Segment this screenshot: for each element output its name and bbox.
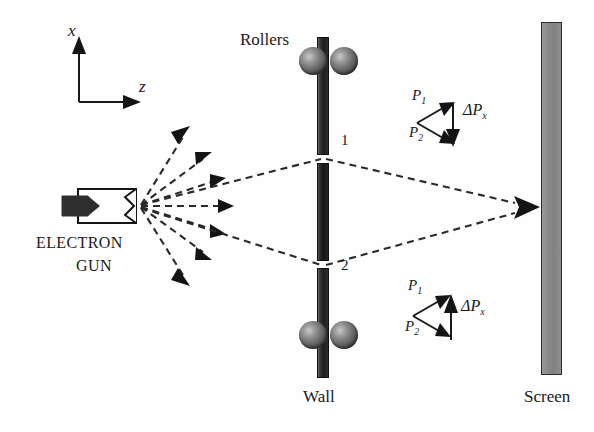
electron-ray-7	[141, 208, 190, 286]
electron-ray-2	[141, 152, 212, 205]
rollers-label: Rollers	[240, 31, 289, 48]
momentum-label-p2-lower: P2	[405, 318, 419, 337]
physics-diagram: x z ELECTRON GUN 1 2 Wall Rollers Screen	[0, 0, 594, 432]
z-axis-arrow	[79, 95, 141, 109]
momentum-label-p1-upper: P1	[412, 87, 426, 106]
slit-2-label: 2	[341, 258, 349, 273]
electron-ray-to-slit-1	[141, 159, 321, 205]
momentum-label-delta-px-upper: ΔPx	[463, 101, 487, 121]
wall-label: Wall	[303, 388, 335, 405]
electron-gun-label-line1: ELECTRON	[36, 235, 123, 251]
x-axis-arrow	[72, 36, 86, 102]
roller-bottom-right	[330, 321, 358, 349]
electron-ray-1	[141, 126, 190, 205]
ray-slit2-to-screen	[326, 213, 515, 265]
electron-ray-3	[141, 174, 226, 205]
electron-gun	[62, 185, 140, 227]
roller-top-left	[299, 47, 327, 75]
screen-label: Screen	[524, 388, 570, 405]
momentum-label-delta-px-lower: ΔPx	[461, 297, 485, 317]
roller-bottom-left	[299, 321, 327, 349]
slit-1-label: 1	[341, 133, 349, 148]
detection-screen	[541, 22, 562, 375]
wall-segment-middle	[317, 163, 329, 261]
screen-impact-arrowhead	[514, 196, 540, 219]
ray-slit1-to-screen	[326, 159, 515, 203]
electron-ray-to-slit-2	[141, 208, 321, 265]
roller-top-right	[330, 47, 358, 75]
electron-ray-6	[141, 207, 212, 260]
momentum-label-p2-upper: P2	[409, 124, 423, 143]
momentum-label-p1-lower: P1	[408, 277, 422, 296]
axis-z-label: z	[139, 78, 146, 95]
axis-x-label: x	[68, 22, 76, 39]
electron-gun-label-line2: GUN	[76, 258, 112, 274]
